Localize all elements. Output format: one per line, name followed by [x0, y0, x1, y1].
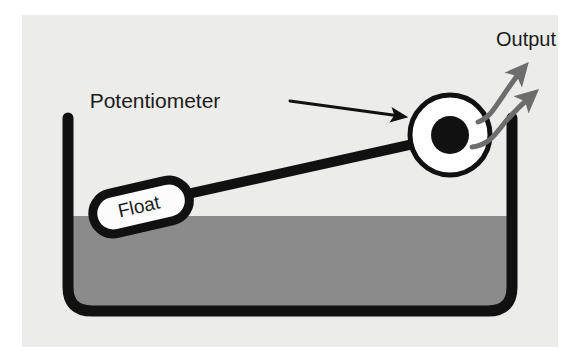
figure-root: Float Output Potentiometer: [0, 0, 574, 357]
potentiometer-label: Potentiometer: [90, 89, 221, 112]
output-label: Output: [496, 28, 556, 50]
level-sensor-diagram: Float Output Potentiometer: [22, 15, 558, 347]
potentiometer-hub: [431, 116, 469, 154]
diagram-panel: Float Output Potentiometer: [22, 15, 558, 347]
potentiometer-pointer-arrow: [290, 101, 400, 116]
